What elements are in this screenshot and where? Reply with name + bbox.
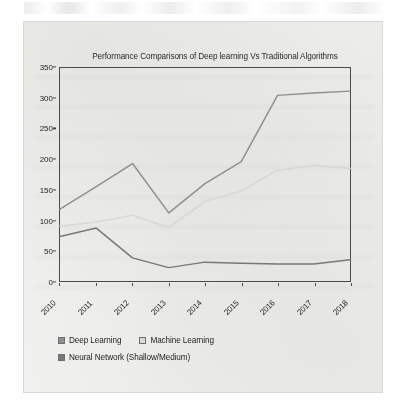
- legend-swatch-icon: [139, 337, 146, 344]
- series-line: [60, 91, 350, 213]
- scanned-page: Performance Comparisons of Deep learning…: [0, 0, 406, 408]
- legend-label: Deep Learning: [69, 336, 121, 345]
- x-axis-tick-label: 2014: [185, 299, 203, 317]
- y-axis-tick-mark: [53, 66, 56, 67]
- y-axis-tick-label: 100: [40, 216, 53, 225]
- y-axis-tick-mark: [53, 189, 56, 190]
- x-axis-tick-mark: [278, 283, 279, 286]
- y-axis-tick-label: 50: [44, 247, 53, 256]
- series-line: [60, 165, 350, 227]
- y-axis-tick-mark: [53, 251, 56, 252]
- series-line: [60, 228, 350, 268]
- x-axis-tick-label: 2018: [331, 299, 349, 317]
- legend-item[interactable]: Machine Learning: [139, 336, 214, 345]
- x-axis-tick-mark: [242, 283, 243, 286]
- legend-item[interactable]: Deep Learning: [58, 336, 121, 345]
- y-axis-tick-label: 350: [40, 63, 53, 72]
- chart-lines: [60, 68, 350, 281]
- y-axis-tick-label: 200: [40, 155, 53, 164]
- legend-swatch-icon: [58, 337, 65, 344]
- figure-panel: Performance Comparisons of Deep learning…: [23, 21, 383, 393]
- x-axis-tick-mark: [351, 283, 352, 286]
- y-axis-tick-mark: [53, 220, 56, 221]
- y-axis-tick-label: 150: [40, 185, 53, 194]
- x-axis-tick-label: 2012: [112, 299, 130, 317]
- legend-label: Neural Network (Shallow/Medium): [69, 353, 190, 362]
- legend-row: Deep LearningMachine Learning: [58, 334, 358, 346]
- y-axis-tick-mark: [53, 97, 56, 98]
- y-axis-tick-mark: [53, 281, 56, 282]
- x-axis: 201020112012201320142015201620172018: [59, 283, 351, 327]
- x-axis-tick-label: 2017: [295, 299, 313, 317]
- x-axis-tick-label: 2016: [258, 299, 276, 317]
- y-axis-tick-mark: [53, 128, 56, 129]
- y-axis-tick-label: 300: [40, 93, 53, 102]
- scan-bleed-noise: [24, 2, 396, 14]
- y-axis: 050100150200250300350: [24, 67, 56, 282]
- y-axis-tick-label: 250: [40, 124, 53, 133]
- legend-swatch-icon: [58, 354, 65, 361]
- legend-label: Machine Learning: [150, 336, 214, 345]
- x-axis-tick-mark: [315, 283, 316, 286]
- x-axis-tick-mark: [132, 283, 133, 286]
- legend-item[interactable]: Neural Network (Shallow/Medium): [58, 353, 190, 362]
- x-axis-tick-label: 2013: [149, 299, 167, 317]
- x-axis-tick-label: 2011: [76, 299, 94, 317]
- x-axis-tick-mark: [59, 283, 60, 286]
- x-axis-tick-label: 2010: [39, 299, 57, 317]
- legend-row: Neural Network (Shallow/Medium): [58, 351, 358, 363]
- chart-legend: Deep LearningMachine LearningNeural Netw…: [58, 334, 358, 368]
- x-axis-tick-mark: [96, 283, 97, 286]
- chart-title: Performance Comparisons of Deep learning…: [60, 52, 370, 61]
- x-axis-tick-mark: [169, 283, 170, 286]
- x-axis-tick-label: 2015: [222, 299, 240, 317]
- x-axis-tick-mark: [205, 283, 206, 286]
- y-axis-tick-mark: [53, 159, 56, 160]
- plot-area: [59, 67, 351, 282]
